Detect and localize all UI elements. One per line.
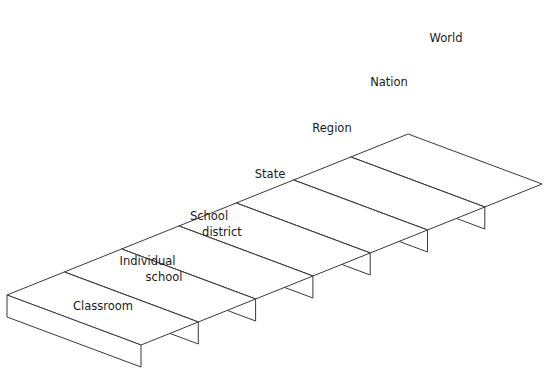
step-label-line: school xyxy=(146,269,183,285)
staircase-diagram xyxy=(0,0,550,375)
step-label-line: Individual xyxy=(120,253,183,269)
step-label-world: World xyxy=(430,30,463,46)
step-label-classroom: Classroom xyxy=(73,298,133,314)
step-label-nation: Nation xyxy=(370,74,408,90)
step-label-line: State xyxy=(255,166,285,182)
step-label-line: World xyxy=(430,30,463,46)
step-label-state: State xyxy=(255,166,285,182)
step-label-region: Region xyxy=(312,120,351,136)
step-label-line: Nation xyxy=(370,74,408,90)
step-label-line: Region xyxy=(312,120,351,136)
step-label-individual-school: Individual school xyxy=(128,253,183,285)
step-label-line: district xyxy=(202,224,242,240)
step-label-school-district: School district xyxy=(188,208,242,240)
step-label-line: Classroom xyxy=(73,298,133,314)
step-label-line: School xyxy=(176,208,242,224)
